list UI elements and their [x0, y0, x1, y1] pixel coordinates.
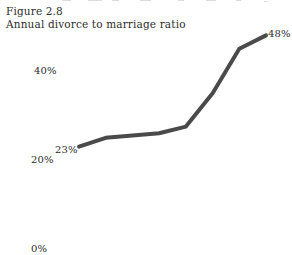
data-label-end: 48%: [268, 28, 291, 39]
figure-page: Figure 2.8 Annual divorce to marriage ra…: [0, 0, 292, 255]
data-label-start: 23%: [55, 144, 78, 155]
y-axis-label-0: 0%: [31, 243, 47, 254]
data-series-line: [79, 35, 266, 146]
y-axis-label-20: 20%: [31, 154, 54, 165]
line-chart-svg: [0, 0, 292, 255]
y-axis-label-40: 40%: [34, 65, 57, 76]
chart-plot-area: [0, 0, 292, 255]
